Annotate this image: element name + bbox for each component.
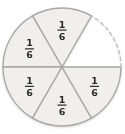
pie-chart: 1616161616 — [0, 0, 125, 134]
fraction-denominator: 6 — [26, 87, 33, 98]
fraction-numerator: 1 — [59, 19, 66, 30]
fraction-denominator: 6 — [59, 31, 66, 42]
fraction-label-bottom-left: 16 — [25, 75, 34, 98]
fraction-numerator: 1 — [26, 37, 33, 48]
fraction-denominator: 6 — [59, 106, 66, 117]
fraction-numerator: 1 — [26, 75, 33, 86]
fraction-label-top-left: 16 — [25, 37, 34, 60]
fraction-label-top-center: 16 — [58, 19, 67, 42]
fraction-circle-figure: 1616161616 — [0, 0, 125, 134]
dashed-arc-missing-slice-top-right — [92, 16, 122, 67]
fraction-numerator: 1 — [91, 75, 98, 86]
fraction-denominator: 6 — [26, 49, 33, 60]
fraction-label-bottom-center: 16 — [58, 94, 67, 117]
fraction-label-bottom-right: 16 — [90, 75, 99, 98]
fraction-numerator: 1 — [59, 94, 66, 105]
fraction-denominator: 6 — [91, 87, 98, 98]
